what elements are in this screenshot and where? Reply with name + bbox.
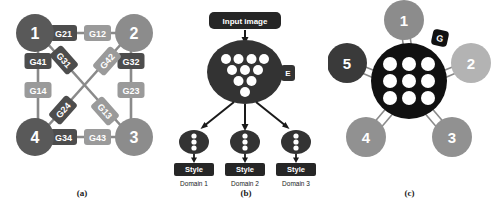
style-branch-1[interactable]: [179, 130, 209, 154]
domain-label-2: Domain 2: [231, 180, 259, 187]
panel-a-edge-lines: [38, 33, 131, 137]
node-4-label: 4: [31, 129, 40, 146]
edge-label-G21-text: G21: [55, 29, 72, 39]
domain-label-3: Domain 3: [282, 180, 310, 187]
edge-label-G12-text: G12: [89, 29, 106, 39]
edge-label-G14-text: G14: [29, 86, 46, 96]
node-1[interactable]: 1: [16, 14, 54, 52]
domain-node-5-label: 5: [343, 55, 351, 72]
edge-label-G43-text: G43: [89, 133, 106, 143]
edge-label-G32-text: G32: [122, 57, 139, 67]
edge-label-G23-text: G23: [122, 86, 139, 96]
domain-node-5[interactable]: 5: [328, 43, 367, 83]
edge-label-G13: G13: [90, 96, 120, 127]
edge-label-G23: G23: [118, 82, 145, 98]
node-3-label: 3: [130, 129, 139, 146]
panel-b-diagram: Input image E: [164, 0, 328, 180]
edge-label-G21: G21: [50, 25, 77, 41]
node-2[interactable]: 2: [115, 14, 153, 52]
panel-a-graph: G21 G12 G34 G43 G41 G14: [0, 0, 164, 180]
style-box-2-label: Style: [236, 165, 254, 174]
figure-container: G21 G12 G34 G43 G41 G14: [0, 0, 491, 210]
node-4[interactable]: 4: [16, 118, 54, 156]
edge-label-G14: G14: [25, 82, 52, 98]
domain-node-2-label: 2: [467, 55, 475, 72]
edge-label-G41: G41: [25, 53, 52, 69]
edge-label-G34: G34: [50, 129, 77, 145]
style-branch-3-dots: [293, 133, 298, 150]
generator-node[interactable]: [371, 43, 447, 119]
generator-dots: [383, 57, 435, 105]
edge-label-G12: G12: [84, 25, 111, 41]
style-box-1-label: Style: [185, 165, 203, 174]
style-box-3[interactable]: Style: [276, 163, 316, 176]
node-2-label: 2: [130, 25, 139, 42]
domain-node-4[interactable]: 4: [346, 117, 386, 157]
panel-c-caption: (c): [328, 188, 491, 198]
style-arrows: [191, 154, 299, 163]
input-image-label: Input image: [223, 17, 268, 26]
style-box-2[interactable]: Style: [225, 163, 265, 176]
encoder-tab-label: E: [285, 69, 291, 78]
panel-a-caption: (a): [0, 188, 164, 198]
encoder-output-arrows: [201, 102, 290, 131]
edge-label-G34-text: G34: [55, 133, 72, 143]
edge-label-G43: G43: [84, 129, 111, 145]
panel-b: Input image E: [164, 0, 328, 210]
panel-c: G 1: [328, 0, 491, 210]
domain-label-1: Domain 1: [180, 180, 208, 187]
encoder-tab: E: [281, 65, 295, 81]
node-3[interactable]: 3: [115, 118, 153, 156]
edge-label-G41-text: G41: [29, 57, 46, 67]
panel-b-caption: (b): [164, 188, 328, 198]
style-branch-2-dots: [242, 133, 247, 150]
domain-node-3-label: 3: [448, 129, 456, 146]
domain-node-4-label: 4: [362, 129, 371, 146]
domain-node-3[interactable]: 3: [432, 117, 472, 157]
domain-node-1-label: 1: [400, 12, 408, 29]
style-branch-1-dots: [191, 133, 196, 150]
encoder-node[interactable]: [207, 40, 283, 104]
panel-c-diagram: G 1: [328, 0, 491, 180]
panel-a: G21 G12 G34 G43 G41 G14: [0, 0, 164, 210]
edge-label-G32: G32: [118, 53, 145, 69]
style-box-1[interactable]: Style: [174, 163, 214, 176]
style-box-3-label: Style: [287, 165, 305, 174]
node-1-label: 1: [31, 25, 40, 42]
domain-node-1[interactable]: 1: [384, 0, 424, 40]
generator-tab: G: [431, 29, 450, 48]
style-branch-2[interactable]: [230, 130, 260, 154]
domain-node-2[interactable]: 2: [451, 43, 491, 83]
input-image-box[interactable]: Input image: [209, 12, 281, 29]
style-branch-3[interactable]: [281, 130, 311, 154]
